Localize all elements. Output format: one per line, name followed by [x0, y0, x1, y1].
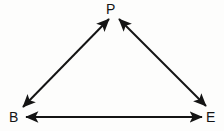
edge-p-to-e-double-arrow	[119, 19, 206, 106]
triangle-diagram: P B E	[0, 0, 224, 131]
edge-b-to-p-double-arrow	[23, 19, 109, 107]
vertex-label-p: P	[106, 2, 115, 16]
edge-group	[23, 19, 206, 117]
vertex-label-b: B	[9, 110, 18, 124]
vertex-label-e: E	[206, 110, 215, 124]
diagram-canvas	[0, 0, 224, 131]
